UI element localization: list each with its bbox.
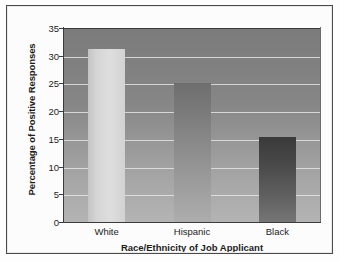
y-axis-tick-label: 10 <box>25 162 59 171</box>
y-axis-tick-labels: 05101520253035 <box>21 28 59 222</box>
x-axis-title: Race/Ethnicity of Job Applicant <box>64 242 320 253</box>
plot-area <box>64 28 320 222</box>
x-axis-line <box>63 222 321 223</box>
y-axis-tick-label: 30 <box>25 51 59 60</box>
y-axis-tick-label: 0 <box>25 218 59 227</box>
bar-white <box>88 49 125 222</box>
y-axis-tick-label: 35 <box>25 24 59 33</box>
plot-right-border <box>320 27 321 223</box>
y-axis-tick-label: 15 <box>25 134 59 143</box>
chart-screenshot: Percentage of Positive Responses 0510152… <box>0 0 340 261</box>
y-axis-tick-label: 5 <box>25 190 59 199</box>
bar-black <box>259 137 296 222</box>
y-axis-tick-label: 20 <box>25 107 59 116</box>
bar-hispanic <box>174 83 211 222</box>
y-axis-tick-label: 25 <box>25 79 59 88</box>
chart-frame: Percentage of Positive Responses 0510152… <box>6 5 333 254</box>
category-label-black: Black <box>227 226 327 237</box>
